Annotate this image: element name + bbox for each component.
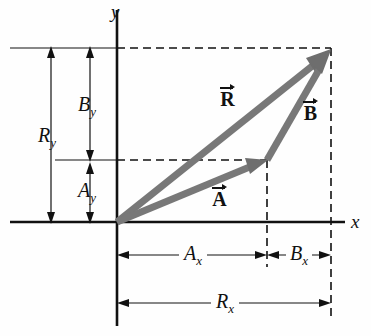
vector-arrow-icon [220, 84, 235, 91]
vector-A-arrowhead [245, 158, 268, 174]
vector-R-label: R [220, 84, 235, 109]
vector-arrow-icon [303, 98, 318, 105]
dimension-Ay-sub: y [90, 190, 96, 205]
dimension-Ay-base: A [78, 179, 90, 201]
dimension-Bx-arrow-right [319, 251, 331, 259]
dimension-Ry-label: Ry [38, 125, 56, 145]
vector-A [117, 158, 268, 222]
dimension-By-base: B [78, 93, 90, 115]
dimension-Bx-base: B [290, 242, 302, 264]
vector-diagram-figure: y x R A B By Ry Ay Ax Bx Rx [0, 0, 371, 336]
dimension-Bx-arrow-left [267, 251, 279, 259]
dimension-Ay-arrow-top [86, 162, 94, 174]
dimension-Ax-sub: x [196, 253, 202, 268]
dimension-Rx-label: Rx [211, 291, 239, 311]
dimension-Ax-base: A [184, 242, 196, 264]
dimension-Rx-arrow-right [319, 299, 331, 307]
dimension-Ax-arrow-left [117, 251, 129, 259]
dimension-Ay-label: Ay [78, 180, 96, 200]
vector-A-shaft [117, 166, 252, 222]
dimension-Bx-label: Bx [286, 243, 312, 263]
dimension-Bx-sub: x [302, 253, 308, 268]
dimension-By-label: By [78, 94, 96, 114]
vector-arrow-icon [212, 184, 227, 191]
x-axis-label: x [351, 212, 359, 231]
dimension-Ry-sub: y [50, 135, 56, 150]
vector-B-label: B [303, 98, 318, 123]
dimension-Ax-arrow-right [255, 251, 267, 259]
vector-A-label: A [212, 184, 227, 209]
dimension-By-sub: y [90, 104, 96, 119]
y-axis-label: y [111, 2, 119, 21]
dimension-Ry-base: R [38, 124, 50, 146]
vector-B [267, 50, 331, 160]
diagram-canvas [0, 0, 371, 336]
dimension-Ax-label: Ax [179, 243, 207, 263]
dimension-Rx-base: R [216, 290, 228, 312]
dimension-Rx-sub: x [228, 301, 234, 316]
dimension-Rx-arrow-left [117, 299, 129, 307]
